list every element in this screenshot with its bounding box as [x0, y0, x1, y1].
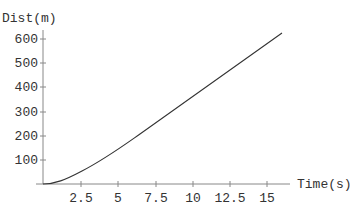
y-tick-500: 500 — [15, 56, 38, 71]
y-tick-200: 200 — [15, 129, 38, 144]
x-tick-5: 5 — [114, 191, 122, 206]
x-tick-7.5: 7.5 — [144, 191, 167, 206]
y-axis: 100 200 300 400 500 600 — [15, 30, 46, 184]
y-tick-labels: 100 200 300 400 500 600 — [15, 32, 38, 168]
x-axis: 2.5 5 7.5 10 12.5 15 Time(s) — [36, 177, 352, 206]
y-tick-100: 100 — [15, 153, 38, 168]
x-tick-10: 10 — [185, 191, 201, 206]
x-tick-15: 15 — [259, 191, 275, 206]
x-axis-title: Time(s) — [297, 177, 352, 192]
y-tick-300: 300 — [15, 105, 38, 120]
distance-curve — [43, 33, 282, 184]
y-tick-400: 400 — [15, 80, 38, 95]
x-tick-labels: 2.5 5 7.5 10 12.5 15 — [69, 191, 275, 206]
chart: Dist(m) 100 200 300 400 500 600 — [0, 0, 363, 209]
y-tick-600: 600 — [15, 32, 38, 47]
y-axis-title: Dist(m) — [2, 11, 57, 26]
x-tick-2.5: 2.5 — [69, 191, 92, 206]
x-tick-12.5: 12.5 — [214, 191, 245, 206]
